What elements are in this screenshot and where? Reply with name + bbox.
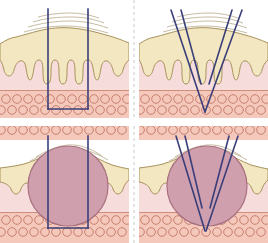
skin-laser-diagram [0,0,268,243]
lesion-sphere [167,146,247,226]
lesion-sphere [28,146,108,226]
figure-container [0,0,268,243]
horizontal-panel-gap [0,118,268,126]
